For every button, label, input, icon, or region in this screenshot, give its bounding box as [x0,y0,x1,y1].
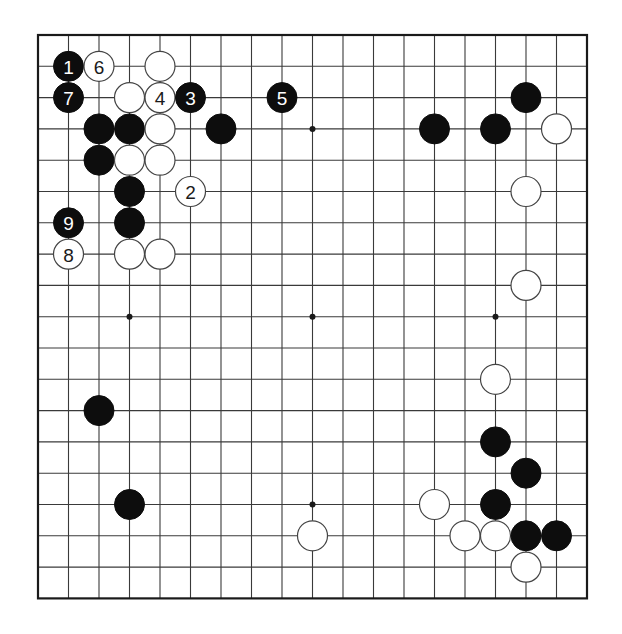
black-stone [206,114,236,144]
black-stone-circle [206,114,236,144]
white-stone [145,239,175,269]
black-stone: 5 [267,83,297,113]
white-stone-circle [542,114,572,144]
white-stone-circle [450,521,480,551]
white-stone [420,490,450,520]
black-stone-circle [481,490,511,520]
black-stone [420,114,450,144]
black-stone-circle [481,114,511,144]
white-stone-circle [481,521,511,551]
white-stone-circle [115,239,145,269]
white-stone: 2 [176,177,206,207]
white-stone [145,51,175,81]
star-point [310,314,316,320]
white-stone-circle [481,364,511,394]
black-stone [115,208,145,238]
black-stone-circle [115,208,145,238]
black-stone [481,427,511,457]
black-stone: 7 [54,83,84,113]
move-number: 3 [185,88,196,109]
white-stone-circle [511,177,541,207]
black-stone-circle [481,427,511,457]
black-stone: 9 [54,208,84,238]
star-point [127,314,133,320]
move-number: 4 [155,88,166,109]
white-stone-circle [145,145,175,175]
black-stone-circle [115,177,145,207]
white-stone [481,364,511,394]
black-stone [511,521,541,551]
black-stone [115,114,145,144]
star-point [310,126,316,132]
white-stone [511,177,541,207]
black-stone-circle [84,145,114,175]
white-stone-circle [115,145,145,175]
white-stone: 6 [84,51,114,81]
black-stone [511,458,541,488]
white-stone: 8 [54,239,84,269]
move-number: 1 [63,57,74,78]
black-stone [84,114,114,144]
white-stone: 4 [145,83,175,113]
white-stone [145,114,175,144]
black-stone [542,521,572,551]
black-stone-circle [542,521,572,551]
white-stone [511,270,541,300]
star-point [310,502,316,508]
move-number: 9 [63,213,74,234]
star-point [493,314,499,320]
white-stone-circle [511,270,541,300]
black-stone-circle [84,396,114,426]
black-stone-circle [511,458,541,488]
black-stone [481,114,511,144]
move-number: 8 [63,245,74,266]
white-stone-circle [145,114,175,144]
black-stone-circle [115,490,145,520]
go-board-diagram: 167435298 [0,0,622,634]
white-stone [115,83,145,113]
white-stone [450,521,480,551]
white-stone [145,145,175,175]
black-stone-circle [511,83,541,113]
white-stone [298,521,328,551]
black-stone [511,83,541,113]
black-stone [84,145,114,175]
move-number: 7 [63,88,74,109]
black-stone-circle [420,114,450,144]
black-stone [481,490,511,520]
white-stone-circle [511,552,541,582]
black-stone: 3 [176,83,206,113]
white-stone-circle [145,51,175,81]
white-stone [511,552,541,582]
white-stone [115,239,145,269]
black-stone-circle [115,114,145,144]
move-number: 5 [277,88,288,109]
white-stone [115,145,145,175]
black-stone-circle [511,521,541,551]
black-stone [115,177,145,207]
black-stone-circle [84,114,114,144]
black-stone [115,490,145,520]
white-stone [542,114,572,144]
black-stone [84,396,114,426]
white-stone-circle [115,83,145,113]
white-stone-circle [420,490,450,520]
black-stone: 1 [54,51,84,81]
move-number: 6 [94,57,105,78]
white-stone-circle [298,521,328,551]
move-number: 2 [185,182,196,203]
white-stone [481,521,511,551]
white-stone-circle [145,239,175,269]
